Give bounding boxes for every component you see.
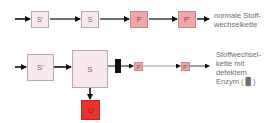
node-p-prime-defect: P' (181, 62, 190, 71)
node-label: S' (37, 63, 44, 72)
node-s-normal: S (81, 11, 99, 28)
node-p-prime-normal: P' (178, 11, 196, 28)
node-label: U (88, 107, 93, 114)
caption-normal: normale Stoff- wechselkette (214, 11, 261, 29)
node-label: P' (184, 16, 190, 23)
node-p-defect: P (134, 62, 143, 71)
node-label: P' (183, 64, 188, 70)
node-label: P (136, 64, 140, 70)
node-label: S (88, 16, 93, 23)
node-s-defect: S (72, 50, 108, 88)
defect-enzyme-block (115, 59, 121, 73)
node-s-prime-normal: S' (31, 11, 49, 28)
node-label: S' (37, 16, 43, 23)
node-label: S (87, 65, 92, 74)
node-label: P (137, 16, 142, 23)
node-p-normal: P (130, 11, 148, 28)
caption-defect: Stoffwechsel- kette mit defektem Enzym (… (216, 50, 261, 86)
node-u-byproduct: U (81, 100, 100, 120)
node-s-prime-defect: S' (27, 54, 54, 81)
